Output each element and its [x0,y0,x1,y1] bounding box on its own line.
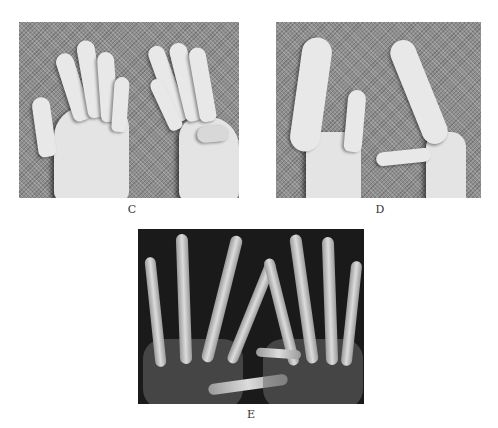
panel-e-xray [138,229,364,404]
panel-label-c: C [122,203,142,216]
right-hand-fingers-lateral [386,36,451,148]
left-hand-thumb-lateral [343,89,366,152]
panel-c-photo [19,22,239,198]
panel-d-photo [276,22,481,198]
panel-label-d: D [370,203,390,216]
panel-label-e: E [241,408,261,421]
right-hand-short-thumb-lateral [375,147,431,167]
left-hand-thumb [31,96,57,158]
